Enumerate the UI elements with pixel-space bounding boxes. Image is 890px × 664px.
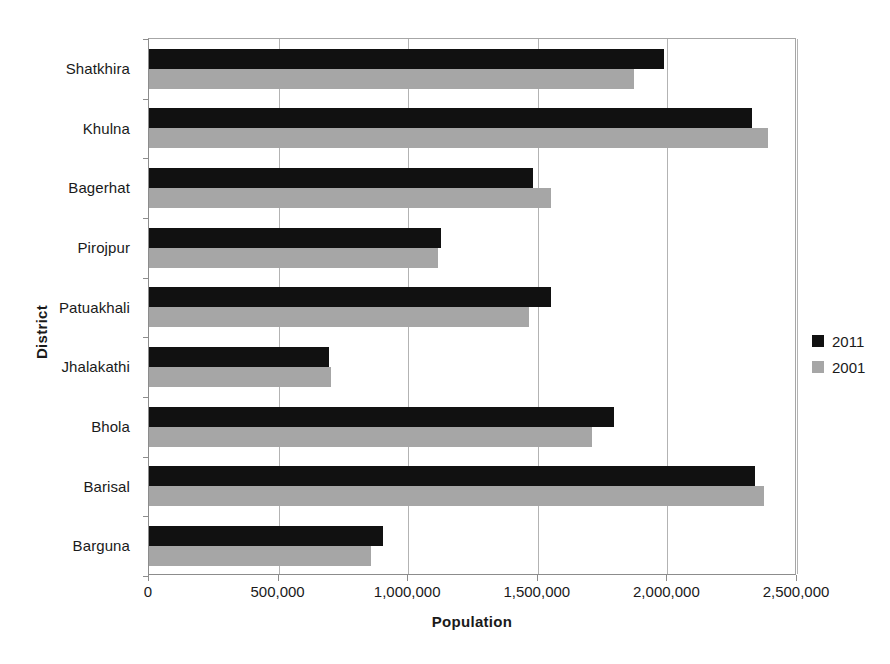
bar-rows [149,39,795,574]
bar-shatkhira-2011 [149,49,664,69]
bar-group [149,99,795,159]
bar-bagerhat-2001 [149,188,551,208]
legend-swatch-icon [812,335,824,347]
legend-label: 2001 [832,360,865,375]
bar-jhalakathi-2011 [149,347,329,367]
x-axis-tick-labels: 0500,0001,000,0001,500,0002,000,0002,500… [0,583,890,607]
y-axis-label-bagerhat: Bagerhat [68,179,130,196]
bar-group [149,39,795,99]
bar-group [149,457,795,517]
bar-pirojpur-2011 [149,228,441,248]
x-axis-tick-label: 2,000,000 [633,583,700,600]
bar-group [149,158,795,218]
bar-group [149,337,795,397]
y-axis-label-barisal: Barisal [83,477,130,494]
x-axis-tick-label: 1,500,000 [503,583,570,600]
y-axis-tick [143,158,149,159]
x-axis-tick [278,575,279,581]
y-axis-category-labels: ShatkhiraKhulnaBagerhatPirojpurPatuakhal… [0,38,140,575]
y-axis-tick [143,99,149,100]
bar-patuakhali-2011 [149,287,551,307]
y-axis-label-bhola: Bhola [91,417,130,434]
x-axis-tick [537,575,538,581]
bar-group [149,397,795,457]
bar-group [149,516,795,576]
bar-group [149,278,795,338]
x-axis-tick [666,575,667,581]
bar-barisal-2011 [149,466,755,486]
x-axis-tick [148,575,149,581]
bar-bhola-2001 [149,427,592,447]
bar-patuakhali-2001 [149,307,529,327]
y-axis-label-pirojpur: Pirojpur [78,238,131,255]
x-axis-title: Population [148,613,796,630]
bar-khulna-2001 [149,128,768,148]
bar-barguna-2001 [149,546,371,566]
x-axis-ticks [148,575,796,583]
y-axis-tick [143,516,149,517]
bar-group [149,218,795,278]
y-axis-label-khulna: Khulna [83,119,130,136]
bar-jhalakathi-2001 [149,367,331,387]
bar-shatkhira-2001 [149,69,634,89]
x-axis-tick-label: 2,500,000 [763,583,830,600]
y-axis-tick [143,278,149,279]
x-axis-tick-label: 1,000,000 [374,583,441,600]
y-axis-label-jhalakathi: Jhalakathi [61,358,130,375]
legend-label: 2011 [832,334,864,349]
x-axis-tick [796,575,797,581]
x-axis-tick-label: 0 [144,583,152,600]
plot-area [148,38,796,575]
bar-bhola-2011 [149,407,614,427]
chart-legend: 20112001 [812,328,882,380]
x-axis-tick [407,575,408,581]
x-axis-tick-label: 500,000 [250,583,304,600]
legend-item-2011: 2011 [812,328,882,354]
y-axis-tick [143,337,149,338]
y-axis-tick [143,457,149,458]
y-axis-tick [143,397,149,398]
legend-item-2001: 2001 [812,354,882,380]
bar-barisal-2001 [149,486,764,506]
bar-chart: District ShatkhiraKhulnaBagerhatPirojpur… [0,0,890,664]
legend-swatch-icon [812,361,824,373]
bar-bagerhat-2011 [149,168,533,188]
gridline [797,39,798,574]
y-axis-label-patuakhali: Patuakhali [59,298,130,315]
bar-barguna-2011 [149,526,383,546]
y-axis-tick [143,218,149,219]
bar-khulna-2011 [149,108,752,128]
y-axis-label-barguna: Barguna [73,537,130,554]
y-axis-tick [143,39,149,40]
bar-pirojpur-2001 [149,248,438,268]
y-axis-label-shatkhira: Shatkhira [66,59,130,76]
